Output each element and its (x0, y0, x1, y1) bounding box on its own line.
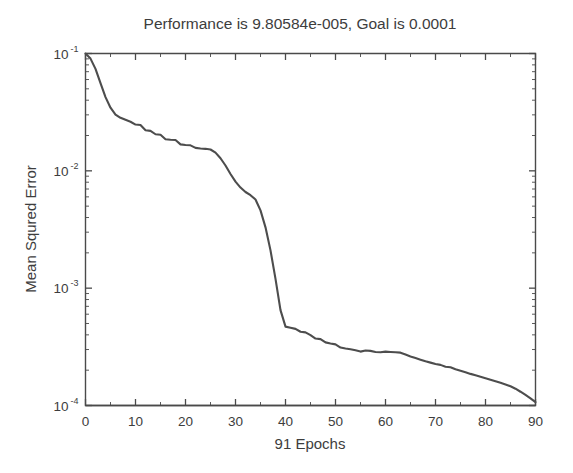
x-tick-label: 50 (328, 414, 343, 429)
y-tick-label-base: 10 (53, 281, 68, 296)
x-axis-label: 91 Epochs (275, 435, 346, 452)
x-tick-label: 40 (278, 414, 293, 429)
x-tick-label: 70 (428, 414, 443, 429)
y-tick-label-exponent: -3 (71, 278, 79, 288)
x-tick-label: 60 (378, 414, 393, 429)
y-tick-label-base: 10 (53, 47, 68, 62)
x-tick-label: 80 (478, 414, 493, 429)
performance-plot-figure: Performance is 9.80584e-005, Goal is 0.0… (0, 0, 573, 473)
plot-canvas: Performance is 9.80584e-005, Goal is 0.0… (0, 0, 573, 473)
x-tick-label: 10 (128, 414, 143, 429)
x-tick-label: 90 (528, 414, 543, 429)
y-tick-label-exponent: -4 (71, 396, 79, 406)
y-tick-label-base: 10 (53, 399, 68, 414)
y-tick-label-base: 10 (53, 164, 68, 179)
y-axis-label: Mean Squred Error (22, 165, 39, 293)
chart-title: Performance is 9.80584e-005, Goal is 0.0… (144, 15, 457, 32)
x-tick-label: 30 (228, 414, 243, 429)
y-tick-label-exponent: -1 (71, 44, 79, 54)
x-tick-label: 0 (82, 414, 90, 429)
x-tick-label: 20 (178, 414, 193, 429)
y-tick-label-exponent: -2 (71, 161, 79, 171)
